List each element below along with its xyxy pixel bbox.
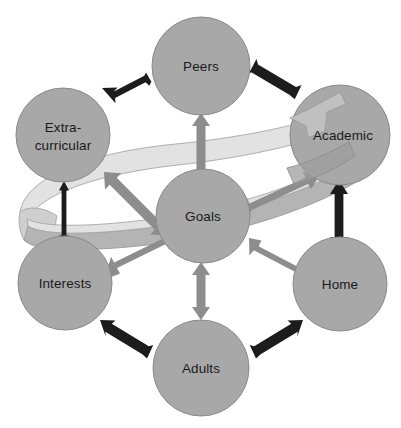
node-home-label: Home <box>322 277 358 292</box>
node-goals-label: Goals <box>185 209 221 224</box>
arrow-interests-adults <box>100 320 153 359</box>
diagram-svg: Peers Extra- curricular Goals Interests <box>0 0 401 428</box>
node-interests[interactable]: Interests <box>18 236 112 330</box>
node-extracurricular-label-line1: Extra- <box>45 120 82 135</box>
arrow-peers-academic <box>249 59 302 99</box>
nodes-layer: Peers Extra- curricular Goals Interests <box>16 17 390 416</box>
node-goals[interactable]: Goals <box>156 169 250 263</box>
arrow-adults-home <box>250 320 303 359</box>
diagram-canvas: Peers Extra- curricular Goals Interests <box>0 0 401 428</box>
node-interests-label: Interests <box>39 276 92 291</box>
arrow-extracurricular-peers <box>102 72 151 103</box>
node-extracurricular-circle[interactable] <box>16 88 110 182</box>
node-home[interactable]: Home <box>293 237 387 331</box>
node-extracurricular-label-line2: curricular <box>35 138 92 153</box>
node-adults-label: Adults <box>182 361 220 376</box>
node-extracurricular[interactable]: Extra- curricular <box>16 88 110 182</box>
node-academic-label: Academic <box>313 128 373 143</box>
node-adults[interactable]: Adults <box>153 320 249 416</box>
node-peers-label: Peers <box>183 59 219 74</box>
node-peers[interactable]: Peers <box>152 17 250 115</box>
arrow-goals-adults <box>192 262 210 320</box>
